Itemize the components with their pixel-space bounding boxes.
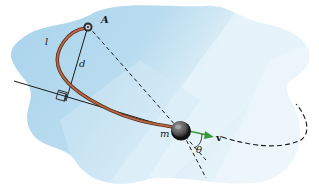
label-v: v bbox=[215, 132, 223, 143]
label-a: A bbox=[100, 14, 109, 25]
label-l: l bbox=[45, 36, 48, 47]
label-d: d bbox=[79, 58, 85, 69]
label-m: m bbox=[160, 128, 169, 139]
pivot-a bbox=[84, 23, 93, 32]
physics-diagram: A l d m v θ bbox=[0, 0, 319, 189]
label-theta: θ bbox=[196, 144, 202, 155]
